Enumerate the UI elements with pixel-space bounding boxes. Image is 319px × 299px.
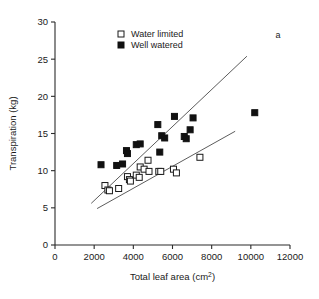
- data-point: [157, 149, 163, 155]
- x-axis-title: Total leaf area (cm2): [130, 271, 215, 283]
- data-point: [183, 136, 189, 142]
- data-points-layer: [98, 110, 258, 194]
- y-axis-title: Transpiration (kg): [7, 96, 18, 170]
- x-tick-label: 2000: [84, 251, 105, 262]
- y-tick-label: 15: [37, 128, 48, 139]
- data-point: [145, 157, 151, 163]
- y-tick-label: 0: [43, 239, 48, 250]
- well-watered-fit: [91, 56, 247, 203]
- data-point: [137, 141, 143, 147]
- data-point: [116, 186, 122, 192]
- x-tick-label: 8000: [201, 251, 222, 262]
- data-point: [124, 151, 130, 157]
- data-point: [187, 127, 193, 133]
- data-point: [98, 162, 104, 168]
- data-point: [158, 168, 164, 174]
- x-tick-label: 6000: [162, 251, 183, 262]
- x-tick-label: 4000: [123, 251, 144, 262]
- data-point: [136, 174, 142, 180]
- data-point: [252, 110, 258, 116]
- data-point: [173, 170, 179, 176]
- fit-lines-layer: [91, 56, 247, 208]
- y-tick-label: 20: [37, 91, 48, 102]
- legend: Water limitedWell watered: [118, 29, 183, 50]
- data-point: [162, 135, 168, 141]
- data-point: [114, 162, 120, 168]
- x-tick-label: 12000: [277, 251, 303, 262]
- axis-labels-layer: Total leaf area (cm2)Transpiration (kg)a: [7, 30, 281, 282]
- data-point: [171, 113, 177, 119]
- y-tick-label: 10: [37, 165, 48, 176]
- legend-marker-1: [118, 31, 124, 37]
- x-tick-label: 10000: [238, 251, 264, 262]
- figure-panel-a: 051015202530020004000600080001000012000 …: [0, 0, 319, 299]
- axes-layer: 051015202530020004000600080001000012000: [37, 16, 303, 262]
- data-point: [127, 178, 133, 184]
- y-tick-label: 30: [37, 16, 48, 27]
- series-water-limited: [102, 154, 203, 193]
- legend-marker-2: [118, 42, 124, 48]
- data-point: [197, 154, 203, 160]
- data-point: [190, 115, 196, 121]
- cropped-header-text: [0, 0, 319, 12]
- data-point: [146, 168, 152, 174]
- data-point: [106, 188, 112, 194]
- series-well-watered: [98, 110, 258, 169]
- y-tick-label: 5: [43, 202, 48, 213]
- panel-label: a: [275, 30, 280, 40]
- legend-label-1: Water limited: [131, 29, 183, 39]
- x-tick-label: 0: [52, 251, 57, 262]
- legend-label-2: Well watered: [131, 40, 183, 50]
- water-limited-fit: [97, 131, 235, 208]
- data-point: [155, 122, 161, 128]
- scatter-plot: 051015202530020004000600080001000012000 …: [0, 0, 319, 299]
- y-tick-label: 25: [37, 54, 48, 65]
- data-point: [120, 161, 126, 167]
